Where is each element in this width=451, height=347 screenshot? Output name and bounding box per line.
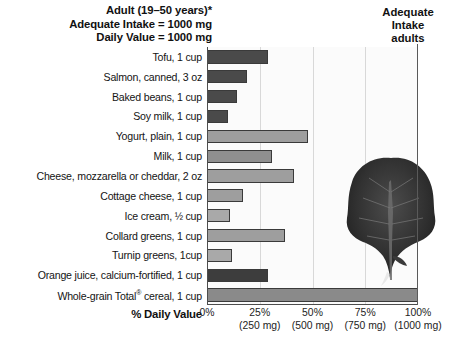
header-line-adult: Adult (19–50 years)* [0,4,212,18]
plot-area [207,47,418,305]
header-line-daily-value: Daily Value = 1000 mg [0,31,212,45]
reference-label-line-1: Adequate [368,6,448,19]
category-label: Cheese, mozzarella or cheddar, 2 oz [0,170,202,182]
bar-row [207,70,418,83]
x-tick-percent: 25% [249,307,270,318]
adequate-intake-reference-line [417,46,418,305]
bar-row [207,249,418,262]
bar [207,269,268,282]
bar-row [207,110,418,123]
x-tick-percent: 100% [405,307,432,318]
category-label: Soy milk, 1 cup [0,110,202,122]
bar [207,130,308,143]
category-label: Cottage cheese, 1 cup [0,190,202,202]
bar [207,70,247,83]
bar [207,50,268,63]
category-label: Ice cream, ½ cup [0,210,202,222]
bar [207,288,418,301]
bar-row [207,150,418,163]
calcium-daily-value-chart: Adult (19–50 years)* Adequate Intake = 1… [0,0,451,347]
bar-row [207,169,418,182]
category-label: Turnip greens, 1cup [0,249,202,261]
category-label: Collard greens, 1 cup [0,230,202,242]
bar [207,209,230,222]
bar [207,229,285,242]
header-line-adequate-intake: Adequate Intake = 1000 mg [0,18,212,32]
chart-header-left: Adult (19–50 years)* Adequate Intake = 1… [0,4,212,45]
x-tick-milligrams: (1000 mg) [387,320,449,333]
x-tick-100: 100%(1000 mg) [387,307,449,332]
category-label: Milk, 1 cup [0,150,202,162]
reference-label-line-2: Intake [368,19,448,32]
x-axis-title-percent: % [131,308,144,320]
x-tick-percent: 0% [199,307,214,318]
category-label: Orange juice, calcium-fortified, 1 cup [0,269,202,281]
category-label: Baked beans, 1 cup [0,91,202,103]
bar [207,150,272,163]
bar [207,169,294,182]
bar-row [207,189,418,202]
adequate-intake-reference-label: Adequate Intake adults [368,6,448,46]
category-label: Salmon, canned, 3 oz [0,71,202,83]
bar [207,249,232,262]
bar-row [207,209,418,222]
bar-row [207,288,418,301]
bar-row [207,269,418,282]
reference-label-line-3: adults [368,32,448,45]
category-label: Whole-grain Total® cereal, 1 cup [0,289,202,302]
bar [207,189,243,202]
bar-row [207,229,418,242]
x-tick-percent: 50% [302,307,323,318]
bar [207,90,237,103]
category-label: Tofu, 1 cup [0,51,202,63]
bar-row [207,50,418,63]
x-tick-percent: 75% [355,307,376,318]
bar-row [207,90,418,103]
bar-row [207,130,418,143]
bar [207,110,228,123]
category-label: Yogurt, plain, 1 cup [0,130,202,142]
